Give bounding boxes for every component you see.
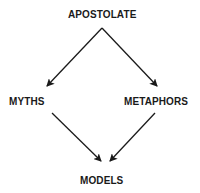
arrow-metaphors-to-models: [110, 113, 155, 161]
node-myths: MYTHS: [9, 96, 45, 107]
arrow-apostolate-to-myths: [47, 28, 102, 86]
arrow-myths-to-models: [52, 113, 101, 161]
node-apostolate: APOSTOLATE: [68, 9, 136, 20]
node-metaphors: METAPHORS: [124, 96, 188, 107]
arrow-apostolate-to-metaphors: [102, 28, 157, 86]
node-models: MODELS: [80, 175, 123, 186]
